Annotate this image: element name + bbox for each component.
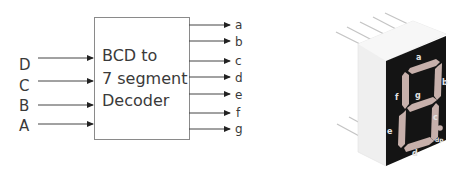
decoder-outputs: a b c d e f g	[189, 18, 243, 136]
seven-segment-display: a b f g c e d dp	[336, 13, 448, 166]
input-label-b: B	[19, 97, 29, 115]
segment-label-b: b	[442, 78, 448, 87]
input-label-c: C	[19, 77, 29, 95]
segment-label-a: a	[416, 53, 421, 62]
segment-label-e: e	[387, 127, 393, 136]
diagram-canvas: BCD to 7 segment Decoder D C B A a b c d…	[0, 0, 463, 170]
decoder-title-line-2: 7 segment	[102, 69, 187, 88]
segment-label-c: c	[433, 113, 438, 122]
decoder-inputs: D C B A	[19, 56, 93, 135]
output-label-f: f	[236, 106, 241, 120]
segment-label-f: f	[395, 93, 399, 102]
decoder-title-line-1: BCD to	[102, 46, 157, 65]
output-label-a: a	[235, 18, 242, 32]
segment-f	[402, 72, 409, 109]
segment-label-dp: dp	[435, 136, 444, 144]
decoder-title-line-3: Decoder	[102, 91, 170, 110]
segment-dp	[437, 125, 443, 131]
output-label-e: e	[235, 88, 242, 102]
segment-label-g: g	[415, 91, 421, 100]
segment-label-d: d	[412, 149, 418, 158]
input-label-a: A	[19, 117, 30, 135]
output-label-b: b	[235, 35, 243, 49]
input-label-d: D	[19, 56, 31, 74]
output-label-g: g	[235, 122, 243, 136]
output-label-c: c	[235, 54, 242, 68]
output-label-d: d	[235, 71, 243, 85]
decoder-block: BCD to 7 segment Decoder	[95, 18, 190, 140]
